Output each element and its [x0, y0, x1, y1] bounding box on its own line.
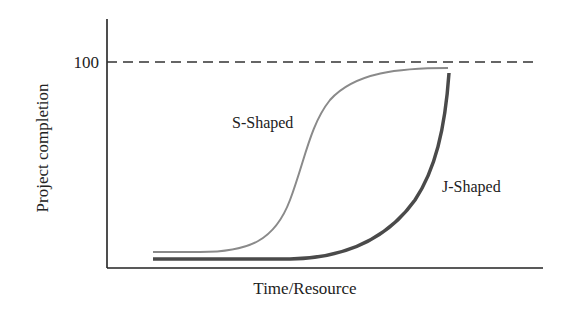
- j-shaped-label: J-Shaped: [442, 178, 501, 196]
- s-shaped-curve: [153, 68, 448, 252]
- y-tick-100: 100: [74, 53, 100, 72]
- y-axis-title: Project completion: [33, 83, 52, 212]
- project-completion-chart: 100 S-Shaped J-Shaped Time/Resource Proj…: [0, 0, 562, 312]
- x-axis-title: Time/Resource: [253, 279, 356, 298]
- s-shaped-label: S-Shaped: [232, 114, 293, 132]
